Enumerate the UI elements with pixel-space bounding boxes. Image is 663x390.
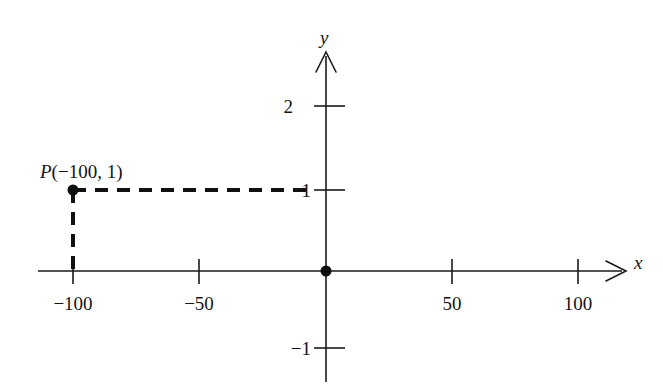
origin-point-marker xyxy=(321,266,332,277)
y-axis-label: y xyxy=(320,28,328,47)
y-tick-label-1: 1 xyxy=(302,181,312,200)
x-axis-label: x xyxy=(634,253,642,272)
point-p-name: P xyxy=(40,161,52,182)
point-p-label: P(−100, 1) xyxy=(40,162,122,181)
x-tick-label-100: 100 xyxy=(564,294,593,313)
graph-svg xyxy=(0,0,663,390)
x-tick-label-50: 50 xyxy=(443,294,462,313)
y-tick-label-neg1: −1 xyxy=(291,339,311,358)
x-tick-label-neg50: −50 xyxy=(184,294,214,313)
y-tick-label-2: 2 xyxy=(284,97,294,116)
point-p-marker xyxy=(68,185,79,196)
coordinate-plane-figure: −100 −50 50 100 2 1 −1 x y P(−100, 1) xyxy=(0,0,663,390)
x-tick-label-neg100: −100 xyxy=(53,294,92,313)
point-p-coords: (−100, 1) xyxy=(52,161,123,182)
